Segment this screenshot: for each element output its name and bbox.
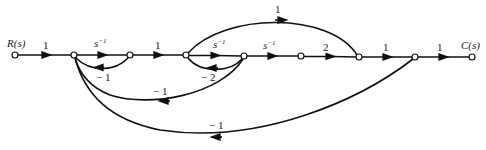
node-7: [356, 54, 362, 60]
gain-n6-n7: 2: [323, 42, 329, 53]
gain-n5-n6: s−1: [263, 40, 276, 51]
input-label: R(s): [7, 38, 25, 49]
node-6: [298, 53, 304, 59]
node-r: [12, 52, 18, 58]
gain-n8-c: 1: [437, 42, 443, 53]
gain-fb-n3-n2: − 1: [96, 72, 110, 83]
branch-n4-n5: [189, 56, 241, 57]
gain-n3-n4: 1: [155, 40, 161, 51]
gain-n4-n7: 1: [275, 4, 281, 15]
output-label: C(s): [461, 40, 480, 51]
node-8: [412, 54, 418, 60]
branch-n8-n2: [75, 58, 413, 133]
gain-n7-n8: 1: [383, 42, 389, 53]
gain-n2-n3: s−1: [94, 38, 107, 49]
gain-fb-n8-n2: − 1: [209, 120, 223, 131]
node-5: [241, 53, 247, 59]
gain-fb-n5-n2: − 1: [153, 86, 167, 97]
node-3: [127, 52, 133, 58]
gain-n4-n5: s−1: [213, 39, 226, 50]
gain-r-n2: 1: [43, 40, 49, 51]
signal-flow-graph: [0, 0, 486, 150]
node-4: [183, 52, 189, 58]
node-c: [469, 54, 475, 60]
node-2: [71, 52, 77, 58]
gain-fb-n5-n4: − 2: [201, 72, 215, 83]
branch-n6-n7: [304, 57, 356, 58]
